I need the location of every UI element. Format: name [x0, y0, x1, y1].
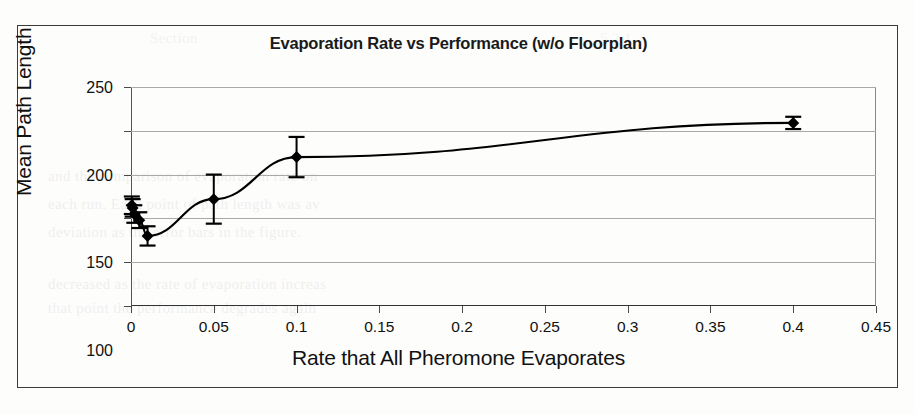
- x-tick-mark: [297, 306, 298, 313]
- chart-title: Evaporation Rate vs Performance (w/o Flo…: [18, 34, 899, 53]
- x-tick-mark: [214, 306, 215, 313]
- y-tick-mark: 200: [124, 131, 131, 132]
- y-tick-mark: 100: [124, 218, 131, 219]
- x-tick-label: 0.45: [861, 318, 891, 336]
- x-tick-mark: [793, 306, 794, 313]
- x-tick-label: 0.25: [530, 318, 560, 336]
- data-series-layer: [131, 87, 876, 306]
- x-tick-label: 0.35: [695, 318, 725, 336]
- data-point: [785, 117, 801, 129]
- x-tick-mark: [710, 306, 711, 313]
- y-tick-label: 150: [86, 254, 113, 272]
- x-tick-label: 0: [127, 318, 136, 336]
- y-tick-label: 250: [86, 79, 113, 97]
- x-tick-label: 0.2: [451, 318, 473, 336]
- scanned-page: and the comparison of evaporation rate o…: [0, 0, 915, 414]
- data-point: [140, 226, 156, 245]
- x-tick-mark: [545, 306, 546, 313]
- y-tick-mark: 0: [124, 306, 131, 307]
- data-marker-diamond: [291, 151, 303, 163]
- x-tick-label: 0.1: [286, 318, 308, 336]
- figure-border: Evaporation Rate vs Performance (w/o Flo…: [17, 25, 898, 388]
- data-marker-diamond: [208, 193, 220, 205]
- y-tick-mark: 150: [124, 175, 131, 176]
- y-tick-label: 200: [86, 167, 113, 185]
- x-tick-mark: [131, 306, 132, 313]
- y-tick-label: 100: [86, 342, 113, 360]
- y-axis-label: Mean Path Length: [12, 28, 36, 196]
- x-tick-mark: [876, 306, 877, 313]
- x-tick-mark: [379, 306, 380, 313]
- plot-area: 050100150200250 00.050.10.150.20.250.30.…: [131, 87, 876, 306]
- x-tick-mark: [462, 306, 463, 313]
- data-point: [206, 175, 222, 224]
- y-tick-mark: 250: [124, 87, 131, 88]
- x-tick-label: 0.05: [199, 318, 229, 336]
- y-tick-mark: 50: [124, 262, 131, 263]
- x-tick-label: 0.3: [617, 318, 639, 336]
- data-point: [289, 137, 305, 177]
- data-marker-diamond: [787, 117, 799, 129]
- x-axis-label: Rate that All Pheromone Evaporates: [18, 346, 899, 370]
- x-tick-mark: [628, 306, 629, 313]
- x-tick-label: 0.15: [364, 318, 394, 336]
- data-marker-diamond: [142, 230, 154, 242]
- x-tick-label: 0.4: [782, 318, 804, 336]
- data-line: [132, 123, 793, 236]
